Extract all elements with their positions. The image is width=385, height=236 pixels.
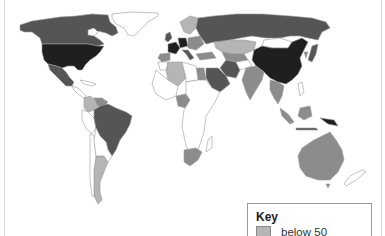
country-indonesia-islands [296,128,318,130]
country-mongolia [262,38,292,48]
country-australia [298,132,344,180]
country-uk [165,32,172,42]
country-south-africa [184,148,202,166]
region-southeast-asia [270,80,284,104]
country-kazakhstan [214,40,256,54]
country-india [242,66,264,100]
country-spain [158,53,170,62]
world-map [0,0,385,236]
country-madagascar [206,136,212,152]
country-turkey [196,52,216,60]
country-korea [304,52,308,58]
legend-label: below 50 [281,226,327,236]
country-canada [20,14,118,46]
country-argentina [94,156,108,204]
region-central-africa [182,80,220,156]
legend-swatch-below-50 [256,226,271,236]
country-italy [182,50,194,60]
country-russia [196,14,330,44]
legend-title: Key [256,210,278,224]
country-philippines [298,82,304,96]
region-central-america [72,86,86,98]
legend-item-below-50: below 50 [256,226,327,236]
country-japan [308,44,318,62]
region-caribbean [80,80,96,86]
country-france [168,42,180,54]
country-borneo [298,106,312,120]
country-tasmania [326,184,330,188]
country-greenland [112,12,158,36]
country-indonesia-sumatra [280,108,294,124]
country-new-zealand [344,170,366,186]
legend-box: Key below 50 [247,203,372,236]
country-papua-new-guinea [320,118,338,126]
region-scandinavia [180,16,198,34]
country-germany [178,38,188,48]
